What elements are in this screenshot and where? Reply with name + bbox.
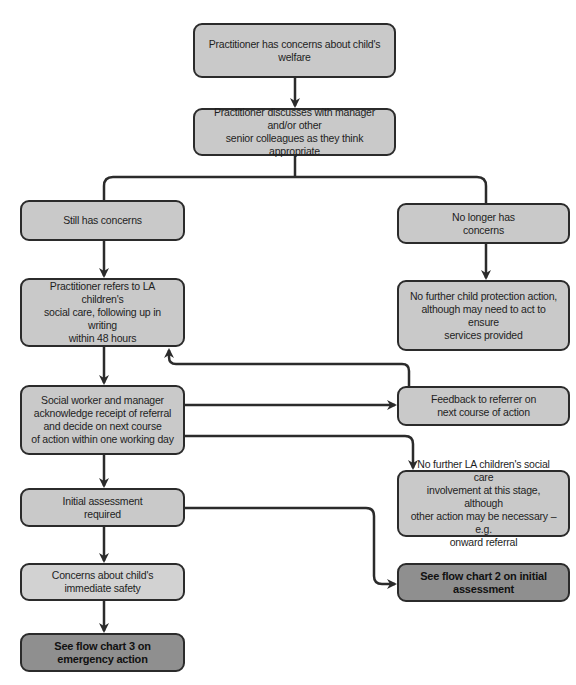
node-no-longer-has-concerns: No longer has concerns — [397, 203, 570, 244]
node-label: Feedback to referrer on next course of a… — [431, 393, 536, 419]
node-immediate-safety-concerns: Concerns about child's immediate safety — [20, 563, 185, 601]
node-no-further-la-involvement: No further LA children's social care inv… — [397, 470, 570, 537]
node-no-further-cp-action: No further child protection action, alth… — [397, 280, 570, 351]
node-label: Practitioner refers to LA children's soc… — [30, 280, 175, 345]
node-label: Concerns about child's immediate safety — [52, 569, 154, 595]
node-initial-assessment-required: Initial assessment required — [20, 488, 185, 527]
node-social-worker-acknowledges: Social worker and manager acknowledge re… — [20, 385, 185, 455]
node-feedback-to-referrer: Feedback to referrer on next course of a… — [397, 386, 570, 426]
node-label: No further child protection action, alth… — [407, 290, 560, 342]
node-label: Practitioner discusses with manager and/… — [203, 106, 386, 158]
node-discusses-with-manager: Practitioner discusses with manager and/… — [193, 108, 396, 156]
node-label: Practitioner has concerns about child's … — [203, 38, 386, 64]
node-label: Social worker and manager acknowledge re… — [31, 394, 173, 446]
node-see-flow-chart-2: See flow chart 2 on initial assessment — [397, 563, 570, 602]
node-label: Initial assessment required — [63, 495, 143, 521]
node-label: No further LA children's social care inv… — [407, 458, 560, 549]
flowchart-canvas: Practitioner has concerns about child's … — [0, 0, 576, 685]
node-see-flow-chart-3: See flow chart 3 on emergency action — [20, 633, 185, 672]
node-concerns-about-welfare: Practitioner has concerns about child's … — [193, 23, 396, 78]
node-label: See flow chart 2 on initial assessment — [420, 570, 547, 596]
node-label: See flow chart 3 on emergency action — [54, 640, 150, 666]
node-label: No longer has concerns — [452, 211, 515, 237]
node-refers-to-social-care: Practitioner refers to LA children's soc… — [20, 278, 185, 347]
node-label: Still has concerns — [63, 214, 142, 227]
node-still-has-concerns: Still has concerns — [20, 200, 185, 241]
